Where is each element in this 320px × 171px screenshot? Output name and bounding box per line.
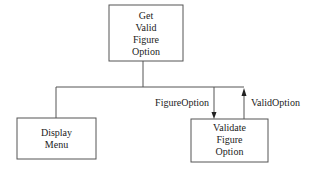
couple-label-figure-option: FigureOption [155,97,209,108]
node-label-line: Figure [133,34,160,45]
node-label-line: Figure [216,134,243,145]
node-label-line: Menu [45,139,68,150]
couple-valid-option: ValidOption [242,88,300,119]
arrow-down-icon [212,112,217,119]
connectors [56,61,244,118]
node-label-line: Display [41,127,72,138]
node-validate-figure-option: Validate Figure Option [191,119,268,162]
node-label-line: Option [132,46,160,57]
couple-label-valid-option: ValidOption [251,97,300,108]
structure-chart: Get Valid Figure Option Display Menu Val… [0,0,320,171]
node-label-line: Get [139,10,154,21]
node-label-line: Validate [213,122,246,133]
node-label-line: Valid [135,22,156,33]
node-get-valid-figure-option: Get Valid Figure Option [109,5,183,61]
node-display-menu: Display Menu [17,118,96,159]
arrow-up-icon [242,88,247,96]
node-label-line: Option [216,146,244,157]
couple-figure-option: FigureOption [155,87,216,119]
